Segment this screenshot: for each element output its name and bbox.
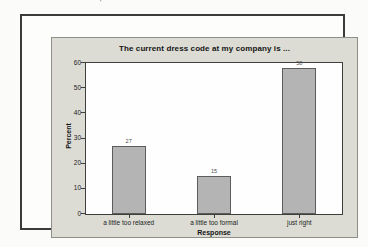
y-tick-mark [81, 213, 85, 214]
y-tick-mark [81, 112, 85, 113]
y-tick-mark [81, 87, 85, 88]
chart-outer-frame: The current dress code at my company is … [20, 14, 345, 230]
x-category-label: a little too formal [169, 219, 259, 226]
y-tick-mark [81, 138, 85, 139]
y-tick-label: 20 [59, 159, 81, 166]
x-category-label: just right [254, 219, 344, 226]
scanned-chart-page: ' The current dress code at my company i… [0, 0, 368, 247]
y-tick-label: 50 [59, 84, 81, 91]
x-tick-mark [299, 215, 300, 218]
y-tick-label: 0 [59, 210, 81, 217]
x-category-label: a little too relaxed [84, 219, 174, 226]
scan-artifact-mark: ' [100, 0, 101, 6]
x-tick-mark [214, 215, 215, 218]
y-tick-mark [81, 163, 85, 164]
axes-layer: 0102030405060a little too relaxeda littl… [52, 38, 357, 237]
chart-panel: The current dress code at my company is … [51, 37, 358, 238]
x-axis-title: Response [85, 229, 343, 236]
y-tick-label: 30 [59, 134, 81, 141]
y-tick-label: 40 [59, 109, 81, 116]
x-tick-mark [129, 215, 130, 218]
y-tick-mark [81, 62, 85, 63]
y-tick-label: 10 [59, 184, 81, 191]
y-tick-label: 60 [59, 59, 81, 66]
y-tick-mark [81, 188, 85, 189]
